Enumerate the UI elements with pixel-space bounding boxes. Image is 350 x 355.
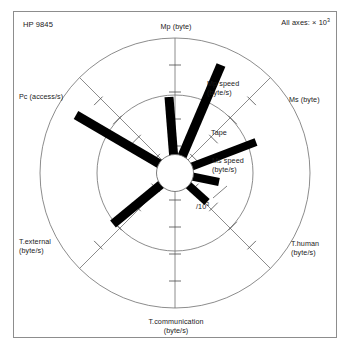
axis-label-t-communication-unit: (byte/s) [148,326,203,335]
bar-label-ms-speed-name: Ms speed [212,156,244,165]
center-hub [157,155,194,192]
axes-scale-note-exponent: 3 [327,17,330,23]
kiviat-figure: HP 9845 All axes: × 103 Mp (byte) Pc (ac… [0,0,350,355]
leader-lines [213,186,227,198]
chart-title: HP 9845 [23,20,53,29]
tick-thuman-2 [209,203,218,212]
tick-ms-4 [247,97,256,106]
axes-scale-note: All axes: × 103 [281,18,330,27]
tick-pc-2 [132,135,141,144]
axis-label-t-communication-name: T.communication [148,317,203,326]
radar-plot [0,0,350,355]
bar-label-divisor-exponent: 3 [206,201,209,207]
axis-label-pc: Pc (access/s) [19,92,63,101]
axis-label-t-human-name: T.human [291,239,319,248]
bar-label-divisor: /103 [196,202,209,211]
tick-ms-3 [228,116,237,125]
axis-label-t-external-unit: (byte/s) [19,246,51,255]
bar-label-divisor-text: /10 [196,202,206,211]
leader-divisor [213,186,227,198]
bar-label-ms-speed: Ms speed(byte/s) [212,156,244,174]
bar-label-mp-speed-name: Mp speed [207,79,239,88]
tick-thuman-3 [228,222,237,231]
axis-label-t-human: T.human(byte/s) [291,239,319,257]
axes-scale-note-text: All axes: × 10 [281,18,327,27]
bar-label-mp-speed: Mp speed(byte/s) [207,79,239,97]
tick-pc-4 [94,97,103,106]
axis-label-t-communication: T.communication(byte/s) [148,317,203,335]
axis-label-t-external-name: T.external [19,237,51,246]
tick-thuman-4 [247,241,256,250]
axis-label-mp: Mp (byte) [160,22,191,31]
tick-texternal-4 [94,241,103,250]
bar-label-mp-speed-unit: (byte/s) [207,88,239,97]
axis-label-t-external: T.external(byte/s) [19,237,51,255]
axis-label-ms: Ms (byte) [289,95,320,104]
bar-label-ms-speed-unit: (byte/s) [212,165,244,174]
axis-label-t-human-unit: (byte/s) [291,248,319,257]
bar-label-tape: Tape [211,128,227,137]
tick-pc-3 [113,116,122,125]
